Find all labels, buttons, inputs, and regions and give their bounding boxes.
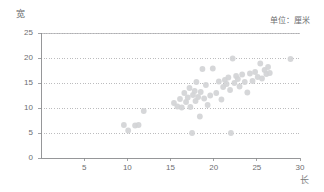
data-point <box>141 108 147 114</box>
y-tick-label-5: 5 <box>11 128 33 138</box>
data-point <box>216 79 222 85</box>
data-point <box>205 102 211 108</box>
y-tick-label-25: 25 <box>11 28 33 38</box>
data-point <box>244 90 250 96</box>
data-point <box>207 93 213 99</box>
data-point <box>197 114 203 120</box>
data-point <box>177 96 183 102</box>
data-point <box>179 105 185 111</box>
data-point <box>250 78 256 84</box>
data-point <box>230 56 236 62</box>
data-point <box>228 130 234 136</box>
x-tick-label-10: 10 <box>117 163 137 173</box>
data-point <box>265 64 271 70</box>
data-point <box>242 79 248 85</box>
data-point <box>252 69 258 75</box>
data-point <box>219 97 225 103</box>
data-point <box>198 89 204 95</box>
x-tick-label-15: 15 <box>161 163 181 173</box>
data-point <box>288 56 294 62</box>
y-tick-label-20: 20 <box>11 53 33 63</box>
data-point-group <box>121 56 293 136</box>
data-point <box>257 61 263 67</box>
data-point <box>225 75 231 81</box>
y-tick-label-0: 0 <box>11 153 33 163</box>
data-point <box>227 87 233 93</box>
scatter-chart: 宽 单位：厘米 2520151050 51015202530 长 <box>0 0 324 192</box>
y-tick-label-15: 15 <box>11 78 33 88</box>
data-point <box>187 104 193 110</box>
data-point <box>192 88 198 94</box>
x-tick-label-20: 20 <box>204 163 224 173</box>
data-point <box>125 128 131 134</box>
x-tick-label-25: 25 <box>247 163 267 173</box>
data-point <box>259 76 265 82</box>
data-point <box>136 122 142 128</box>
data-point <box>200 66 206 72</box>
data-point <box>203 82 209 88</box>
data-point <box>267 70 273 76</box>
data-point <box>189 130 195 136</box>
data-point <box>247 71 253 77</box>
y-tick-label-10: 10 <box>11 103 33 113</box>
data-point <box>121 122 127 128</box>
data-point <box>235 76 241 82</box>
data-point <box>201 96 207 102</box>
data-point <box>210 66 216 72</box>
data-point <box>195 94 201 100</box>
data-point <box>213 90 219 96</box>
x-axis-title: 长 <box>300 175 309 186</box>
data-point <box>224 81 230 87</box>
data-point <box>237 84 243 90</box>
x-tick-label-5: 5 <box>74 163 94 173</box>
data-point <box>239 72 245 78</box>
data-point <box>185 95 191 101</box>
data-point <box>194 79 200 85</box>
x-tick-label-30: 30 <box>290 163 310 173</box>
data-point <box>187 85 193 91</box>
